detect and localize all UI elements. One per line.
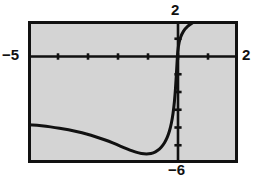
- x-axis-max-label: 2: [242, 47, 250, 62]
- graph-plot-area: [28, 21, 238, 163]
- graph-canvas: [28, 21, 238, 163]
- x-axis-min-label: −5: [2, 47, 19, 62]
- calculator-graph-screenshot: −5 2 2 −6: [0, 0, 254, 179]
- y-axis-max-label: 2: [171, 2, 179, 17]
- plot-background: [28, 21, 238, 163]
- y-axis-min-label: −6: [168, 162, 185, 177]
